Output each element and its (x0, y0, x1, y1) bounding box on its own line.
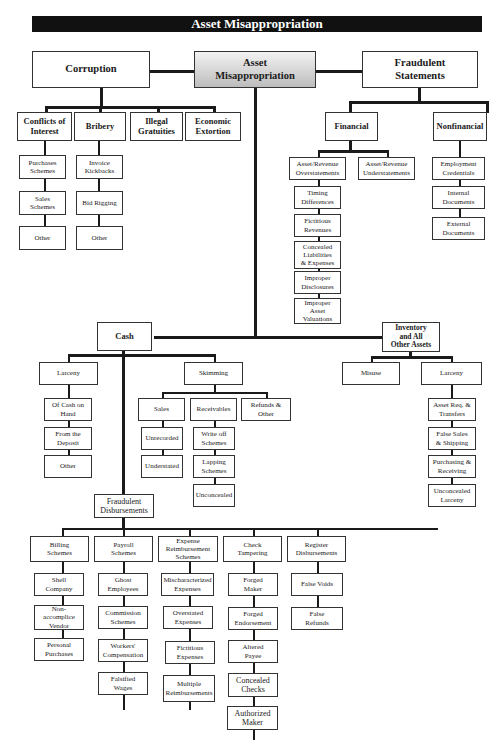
node-corruption: Corruption (32, 51, 150, 88)
connector (162, 392, 267, 394)
node-inventory-larceny: Larceny (421, 362, 482, 385)
node-unconcealed: Unconcealed (193, 484, 235, 507)
node-understated: Understated (141, 455, 183, 478)
node-check-tampering: Check Tampering (223, 536, 282, 562)
node-concealed-checks: Concealed Checks (228, 673, 278, 697)
node-lapping-schemes: Lapping Schemes (193, 455, 235, 478)
connector (62, 528, 64, 536)
node-skimming-sales: Sales (138, 398, 185, 421)
node-asset-revenue-overstatements: Asset/Revenue Overstatements (289, 157, 346, 180)
node-of-cash-on-hand: Of Cash on Hand (44, 398, 92, 421)
node-improper-asset-valuations: Improper Asset Valuations (294, 298, 341, 324)
node-forged-maker: Forged Maker (228, 573, 278, 596)
node-purchases-schemes: Purchases Schemes (19, 155, 66, 179)
node-payroll-schemes: Payroll Schemes (94, 536, 153, 562)
node-financial: Financial (325, 112, 378, 141)
node-billing-schemes: Billing Schemes (30, 536, 89, 562)
node-unconcealed-larceny: Unconcealed Larceny (428, 484, 476, 507)
node-invoice-kickbacks: Invoice Kickbacks (76, 155, 123, 179)
node-forged-endorsement: Forged Endorsement (228, 607, 278, 630)
node-workers-compensation: Workers' Compensation (98, 639, 148, 662)
node-asset-req-transfers: Asset Req. & Transfers (428, 398, 476, 421)
node-employment-credentials: Employment Credentials (432, 157, 485, 180)
node-internal-documents: Internal Documents (432, 186, 485, 209)
node-improper-disclosures: Improper Disclosures (294, 271, 341, 294)
node-from-the-deposit: From the Deposit (44, 427, 92, 450)
node-asset-misappropriation: Asset Misappropriation (194, 51, 316, 88)
node-false-voids: False Voids (291, 573, 343, 596)
node-commission-schemes: Commission Schemes (98, 606, 148, 629)
node-write-off-schemes: Write off Schemes (193, 427, 235, 450)
node-external-documents: External Documents (432, 217, 485, 240)
node-shell-company: Shell Company (34, 573, 84, 596)
node-fraudulent-statements: Fraudulent Statements (362, 51, 478, 88)
connector (122, 350, 125, 500)
connector (68, 354, 216, 357)
node-mischaracterized-expenses: Mischaracterized Expenses (161, 573, 214, 596)
node-fraudulent-disbursements: Fraudulent Disbursements (94, 494, 154, 518)
node-corruption-other-1: Other (19, 226, 66, 250)
node-ghost-employees: Ghost Employees (98, 573, 148, 596)
node-asset-revenue-understatements: Asset/Revenue Understatements (358, 157, 415, 180)
node-register-disbursements: Register Disbursements (287, 536, 346, 562)
connector (100, 88, 103, 108)
connector (317, 528, 319, 536)
node-altered-payee: Altered Payee (228, 640, 278, 663)
node-non-accomplice-vendor: Non- accomplice Vendor (34, 605, 84, 630)
connector (214, 354, 216, 362)
node-unrecorded: Unrecorded (141, 427, 183, 450)
node-fictitious-revenues: Fictitious Revenues (294, 214, 341, 237)
connector (349, 101, 488, 104)
node-cash: Cash (97, 322, 152, 351)
node-falsified-wages: Falsified Wages (98, 672, 148, 695)
connector (62, 528, 438, 530)
connector (318, 150, 388, 153)
node-personal-purchases: Personal Purchases (34, 638, 84, 661)
node-bid-rigging: Bid Rigging (76, 191, 123, 215)
node-false-sales-shipping: False Sales & Shipping (428, 427, 476, 450)
diagram-title: Asset Misappropriation (32, 16, 482, 32)
node-multiple-reimbursements: Multiple Reimbursements (163, 675, 215, 702)
node-conflicts-of-interest: Conflicts of Interest (17, 112, 72, 141)
node-corruption-other-2: Other (76, 226, 123, 250)
node-timing-differences: Timing Differences (294, 186, 341, 209)
connector (123, 528, 125, 536)
node-concealed-liabilities: Concealed Liabilities & Expenses (294, 241, 341, 269)
connector (371, 356, 453, 359)
node-illegal-gratuities: Illegal Gratuities (130, 112, 183, 141)
node-fictitious-expenses: Fictitious Expenses (165, 641, 215, 664)
connector (189, 528, 191, 536)
node-bribery: Bribery (74, 112, 126, 141)
connector (253, 528, 255, 536)
node-cash-larceny: Larceny (39, 362, 98, 385)
node-refunds-other: Refunds & Other (241, 398, 291, 421)
node-nonfinancial: Nonfinancial (433, 112, 487, 141)
node-misuse: Misuse (342, 362, 400, 385)
connector (254, 88, 257, 338)
node-economic-extortion: Economic Extortion (185, 112, 241, 141)
node-sales-schemes: Sales Schemes (19, 191, 66, 215)
node-authorized-maker: Authorized Maker (227, 706, 278, 730)
connector (68, 354, 70, 362)
node-expense-reimbursement-schemes: Expense Reimbursement Schemes (158, 536, 218, 562)
node-purchasing-receiving: Purchasing & Receiving (428, 455, 476, 478)
node-overstated-expenses: Overstated Expenses (163, 606, 213, 629)
node-inventory-and-all-other-assets: Inventory and All Other Assets (382, 322, 440, 352)
node-cash-larceny-other: Other (44, 455, 92, 478)
connector (154, 336, 414, 339)
connector (45, 106, 216, 109)
node-skimming-receivables: Receivables (190, 398, 237, 421)
node-false-refunds: False Refunds (291, 607, 343, 630)
node-skimming: Skimming (184, 362, 243, 385)
